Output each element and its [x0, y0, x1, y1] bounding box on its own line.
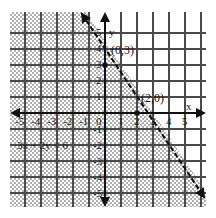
- x-tick-label-5: 5: [182, 116, 188, 127]
- x-tick-label-2: 2: [134, 116, 140, 127]
- x-tick-label--5: -5: [15, 116, 24, 127]
- point-label-0-3: (0,3): [111, 44, 134, 56]
- y-tick-label-2: 2: [96, 75, 102, 86]
- y-axis-label: y: [109, 27, 115, 38]
- y-tick-label--4: -4: [93, 172, 102, 183]
- x-tick-label--4: -4: [31, 116, 40, 127]
- y-tick-label-4: 4: [96, 43, 102, 54]
- graph-figure: -5 -4 -3 -2 -1 0 1 2 3 4 5 5 4 3 2 1 -1 …: [0, 0, 216, 218]
- x-axis-label: x: [186, 101, 192, 112]
- inequality-label: 3x + 2y < 6: [17, 140, 68, 151]
- y-tick-label--1: -1: [93, 124, 102, 135]
- x-tick-label--3: -3: [47, 116, 56, 127]
- shaded-region: [10, 12, 206, 207]
- x-tick-label--2: -2: [63, 116, 72, 127]
- point-0-3: [102, 62, 107, 67]
- y-tick-label-5: 5: [96, 27, 102, 38]
- y-tick-label--2: -2: [93, 140, 102, 151]
- y-tick-label-1: 1: [96, 91, 102, 102]
- point-label-2-0: (2,0): [141, 92, 164, 104]
- coordinate-plane: [0, 0, 216, 218]
- y-tick-label-3: 3: [96, 59, 102, 70]
- x-tick-label-1: 1: [118, 116, 124, 127]
- y-tick-label--3: -3: [93, 156, 102, 167]
- x-tick-label-4: 4: [166, 116, 172, 127]
- y-tick-label--5: -5: [93, 188, 102, 199]
- x-tick-label-3: 3: [150, 116, 156, 127]
- x-tick-label--1: -1: [79, 116, 88, 127]
